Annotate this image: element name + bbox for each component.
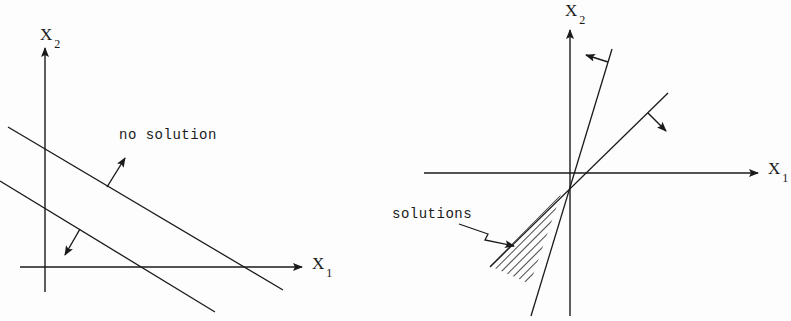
axis-letter: X xyxy=(565,1,577,20)
axis-letter: X xyxy=(768,159,780,178)
axis-subscript: 1 xyxy=(782,171,788,185)
right-x2-axis-label: X2 xyxy=(565,2,583,19)
diagram-canvas xyxy=(0,0,791,321)
no-solution-diagram xyxy=(0,48,302,312)
solutions-diagram xyxy=(424,30,758,316)
upper-constraint-line xyxy=(8,127,283,290)
shallow-constraint-line xyxy=(490,93,668,267)
right-x1-axis-label: X1 xyxy=(768,160,786,177)
shallow-normal-arrow-icon xyxy=(648,113,666,131)
left-x2-axis-label: X2 xyxy=(40,26,58,43)
solutions-label: solutions xyxy=(392,207,472,221)
axis-subscript: 2 xyxy=(54,37,60,51)
lower-constraint-line xyxy=(0,181,215,312)
lower-normal-arrow-icon xyxy=(65,229,80,255)
upper-normal-arrow-icon xyxy=(107,158,125,187)
axis-letter: X xyxy=(312,254,324,273)
axis-subscript: 1 xyxy=(326,266,332,280)
axis-letter: X xyxy=(40,25,52,44)
squiggle-pointer-arrow-icon xyxy=(459,224,514,246)
steep-constraint-line xyxy=(531,49,612,316)
steep-normal-arrow-icon xyxy=(586,55,608,62)
axis-subscript: 2 xyxy=(579,13,585,27)
left-x1-axis-label: X1 xyxy=(312,255,330,272)
no-solution-label: no solution xyxy=(119,128,217,142)
